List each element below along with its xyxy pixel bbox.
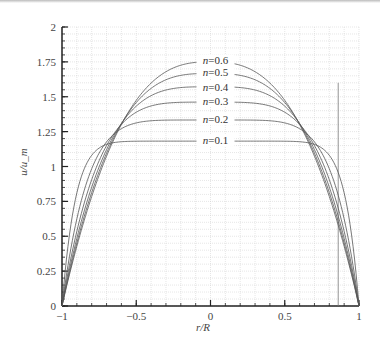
y-tick-label: 1.75 bbox=[37, 56, 57, 68]
x-tick-label: 1 bbox=[356, 310, 362, 322]
curve-label: n=0.2 bbox=[203, 113, 228, 125]
y-tick-label: 1.25 bbox=[37, 126, 57, 138]
curve-label: n=0.5 bbox=[203, 66, 229, 78]
curve-label: n=0.4 bbox=[203, 81, 229, 93]
y-tick-label: 1 bbox=[51, 161, 57, 173]
curve-label: n=0.1 bbox=[203, 134, 228, 146]
y-tick-label: 0.75 bbox=[37, 195, 57, 207]
y-tick-label: 1.5 bbox=[42, 91, 56, 103]
curve-label: n=0.6 bbox=[203, 54, 229, 66]
x-tick-label: 0.5 bbox=[278, 310, 292, 322]
y-tick-label: 0.5 bbox=[42, 230, 56, 242]
curve-label: n=0.3 bbox=[203, 95, 229, 107]
x-axis-label: r/R bbox=[196, 321, 210, 333]
y-tick-label: 0.25 bbox=[37, 265, 57, 277]
y-tick-label: 2 bbox=[51, 21, 57, 33]
x-tick-label: −1 bbox=[56, 310, 68, 322]
y-axis-label: u/u_m bbox=[17, 147, 41, 177]
x-tick-label: −0.5 bbox=[126, 310, 146, 322]
profile-chart: 00.250.50.7511.251.51.752−1−0.500.51n=0.… bbox=[0, 0, 380, 348]
